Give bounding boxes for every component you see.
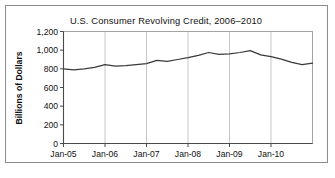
y-axis-tick-label: 1,200 [36,27,58,37]
y-axis-title: Billions of Dollars [14,51,24,124]
x-axis-tick-label: Jan-09 [216,149,242,159]
y-axis-tick-label: 600 [44,83,59,93]
chart-title: U.S. Consumer Revolving Credit, 2006–201… [70,16,262,26]
x-axis-tick-label: Jan-07 [133,149,159,159]
x-axis-tick-label: Jan-08 [175,149,201,159]
y-axis-tick-label: 0 [53,139,58,149]
chart-figure-frame: U.S. Consumer Revolving Credit, 2006–201… [5,5,328,163]
x-axis-tick-label: Jan-05 [50,149,76,159]
y-axis-tick-label: 400 [44,101,59,111]
y-axis-tick-label: 1,000 [36,45,58,55]
y-axis-tick-label: 200 [44,120,59,130]
x-axis-tick-labels: Jan-05Jan-06Jan-07Jan-08Jan-09Jan-10 [50,149,284,159]
y-axis-tick-labels: 02004006008001,0001,200 [36,27,58,149]
revolving-credit-line-chart: U.S. Consumer Revolving Credit, 2006–201… [6,6,327,162]
chart-gridlines [105,32,271,144]
y-axis-tick-label: 800 [44,64,59,74]
x-axis-tick-label: Jan-06 [92,149,118,159]
x-axis-tick-label: Jan-10 [258,149,284,159]
